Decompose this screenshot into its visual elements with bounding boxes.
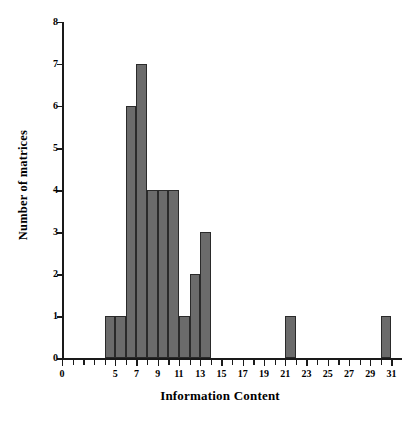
x-tick-19 bbox=[264, 360, 265, 366]
bar bbox=[115, 316, 126, 358]
x-tick-24 bbox=[317, 360, 318, 365]
x-tick-label-0: 0 bbox=[50, 367, 74, 380]
x-tick-17 bbox=[243, 360, 244, 366]
bar bbox=[126, 106, 137, 358]
y-axis-title: Number of matrices bbox=[14, 20, 32, 350]
x-tick-22 bbox=[296, 360, 297, 365]
y-tick-label: 3 bbox=[53, 225, 58, 239]
bar bbox=[381, 316, 392, 358]
y-tick-label: 0 bbox=[53, 351, 58, 365]
bar bbox=[105, 316, 116, 358]
x-tick-12 bbox=[190, 360, 191, 365]
x-tick-1 bbox=[73, 360, 74, 365]
bar bbox=[136, 64, 147, 358]
bar bbox=[200, 232, 211, 358]
x-tick-8 bbox=[147, 360, 148, 365]
x-tick-25 bbox=[328, 360, 329, 366]
x-tick-18 bbox=[253, 360, 254, 365]
x-tick-29 bbox=[370, 360, 371, 366]
x-tick-13 bbox=[200, 360, 201, 366]
x-tick-3 bbox=[94, 360, 95, 365]
x-tick-label-31: 31 bbox=[379, 367, 403, 380]
y-tick-label: 7 bbox=[53, 57, 58, 71]
x-tick-4 bbox=[105, 360, 106, 365]
bar bbox=[190, 274, 201, 358]
x-axis-title: Information Content bbox=[40, 388, 400, 404]
x-tick-14 bbox=[211, 360, 212, 365]
bar bbox=[168, 190, 179, 358]
x-tick-11 bbox=[179, 360, 180, 366]
y-axis-line bbox=[62, 22, 64, 360]
x-tick-26 bbox=[338, 360, 339, 365]
x-tick-9 bbox=[158, 360, 159, 366]
y-tick-label: 4 bbox=[53, 183, 58, 197]
x-tick-10 bbox=[168, 360, 169, 365]
x-tick-23 bbox=[306, 360, 307, 366]
y-tick-label: 2 bbox=[53, 267, 58, 281]
y-tick-label: 6 bbox=[53, 99, 58, 113]
x-tick-20 bbox=[275, 360, 276, 365]
plot-area: 012345678 05791113151719212325272931 bbox=[62, 22, 402, 360]
x-tick-7 bbox=[136, 360, 137, 366]
y-tick-label: 1 bbox=[53, 309, 58, 323]
x-tick-30 bbox=[381, 360, 382, 365]
bar bbox=[147, 190, 158, 358]
x-tick-5 bbox=[115, 360, 116, 366]
y-tick-label: 5 bbox=[53, 141, 58, 155]
x-tick-31 bbox=[391, 360, 392, 366]
bar bbox=[158, 190, 169, 358]
x-tick-27 bbox=[349, 360, 350, 366]
y-tick-label: 8 bbox=[53, 15, 58, 29]
bar bbox=[179, 316, 190, 358]
x-tick-16 bbox=[232, 360, 233, 365]
x-tick-2 bbox=[83, 360, 84, 365]
bar bbox=[285, 316, 296, 358]
x-tick-28 bbox=[360, 360, 361, 365]
x-tick-21 bbox=[285, 360, 286, 366]
x-tick-15 bbox=[221, 360, 222, 366]
x-tick-6 bbox=[126, 360, 127, 365]
x-tick-0 bbox=[62, 360, 63, 366]
histogram-chart: Number of matrices 012345678 05791113151… bbox=[0, 0, 414, 423]
